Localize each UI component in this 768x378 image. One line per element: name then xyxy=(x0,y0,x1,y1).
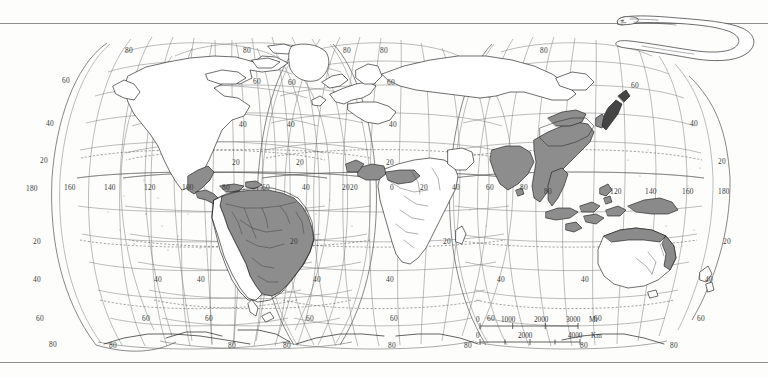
lat-label-40n-l3: 40 xyxy=(239,120,247,129)
lon-label-180e: 180 xyxy=(718,187,730,196)
lon-label-100w: 100 xyxy=(182,183,194,192)
lat-label-20n-l1b: 20 xyxy=(296,158,304,167)
lat-label-40n-l2b: 40 xyxy=(389,120,397,129)
lat-label-40s-l2a: 40 xyxy=(197,275,205,284)
lat-label-60s-l3a: 60 xyxy=(390,314,398,323)
lat-label-80n-l1b: 80 xyxy=(243,46,251,55)
lat-label-20s-l2a: 20 xyxy=(290,237,298,246)
scale-mi-unit: Mi xyxy=(589,316,597,324)
lat-label-60n-l1b: 60 xyxy=(288,78,296,87)
lat-label-80n-l4: 80 xyxy=(540,46,548,55)
lat-label-40s-l2b: 40 xyxy=(313,275,321,284)
eel-illustration xyxy=(612,8,764,70)
lat-label-80n-l2: 80 xyxy=(380,46,388,55)
lat-label-60s-l2b: 60 xyxy=(306,314,314,323)
lat-label-40s-l4a: 40 xyxy=(581,275,589,284)
scale-mi-tick-0: 0 xyxy=(476,316,480,324)
lon-label-80e: 80 xyxy=(520,183,528,192)
lat-label-60n-l4: 60 xyxy=(631,81,639,90)
lat-label-40s-right: 40 xyxy=(705,275,713,284)
lat-label-40s-l3b: 40 xyxy=(386,275,394,284)
lat-label-20n-l3: 20 xyxy=(232,158,240,167)
lon-label-140e: 140 xyxy=(645,187,657,196)
lat-label-60s-l2a: 60 xyxy=(205,314,213,323)
lat-label-60s-left: 60 xyxy=(36,314,44,323)
lat-label-40s-l1b: 40 xyxy=(154,275,162,284)
lat-label-80s-l3a: 80 xyxy=(388,341,396,350)
lat-label-80s-l4b: 80 xyxy=(670,341,678,350)
lat-label-20s-left: 20 xyxy=(33,237,41,246)
lon-label-40e: 40 xyxy=(452,183,460,192)
lat-label-20s-l3b: 20 xyxy=(443,237,451,246)
lat-label-40n-left: 40 xyxy=(46,119,54,128)
lon-label-20e: 20 xyxy=(420,183,428,192)
lat-label-20n-right: 20 xyxy=(718,157,726,166)
scale-bar: 0 1000 2000 3000 Mi 0 2000 4000 Km xyxy=(470,316,602,354)
lon-label-0: 0 xyxy=(390,183,394,192)
scale-mi-tick-3000: 3000 xyxy=(566,316,580,324)
lat-label-60n-left: 60 xyxy=(62,76,70,85)
lat-label-40n-l1b: 40 xyxy=(287,120,295,129)
lon-label-20w-b: 20 xyxy=(350,183,358,192)
lon-label-160e: 160 xyxy=(682,187,694,196)
lon-label-120e: 120 xyxy=(610,187,622,196)
lon-label-80w: 80 xyxy=(222,183,230,192)
lat-label-80s-l2b: 80 xyxy=(283,341,291,350)
lat-label-60n-l2b: 60 xyxy=(387,78,395,87)
scale-km-unit: Km xyxy=(591,332,602,340)
figure-page: 80 80 60 60 40 40 20 20 20 40 40 60 60 8… xyxy=(0,0,768,378)
lat-label-80n-l1a: 80 xyxy=(125,46,133,55)
lon-label-60w: 60 xyxy=(262,183,270,192)
lat-label-20n-l2b: 20 xyxy=(386,158,394,167)
lon-label-20w: 20 xyxy=(342,183,350,192)
lat-label-60s-l1b: 60 xyxy=(142,314,150,323)
lat-label-60n-l3: 60 xyxy=(253,77,261,86)
scale-mi-tick-2000: 2000 xyxy=(534,316,548,324)
lon-label-160w: 160 xyxy=(64,183,76,192)
lon-label-40w: 40 xyxy=(302,183,310,192)
lon-label-60e: 60 xyxy=(486,183,494,192)
lat-label-20s-right: 20 xyxy=(723,237,731,246)
scale-km-tick-0: 0 xyxy=(476,332,480,340)
landmasses xyxy=(104,44,714,344)
lat-label-20n-left: 20 xyxy=(40,156,48,165)
scale-km-tick-2000: 2000 xyxy=(518,332,532,340)
lon-label-180w: 180 xyxy=(26,184,38,193)
lon-label-140w: 140 xyxy=(104,183,116,192)
scale-km-tick-4000: 4000 xyxy=(568,332,582,340)
lat-label-40n-right: 40 xyxy=(690,119,698,128)
lon-label-80e-b: 80 xyxy=(544,187,552,196)
lat-label-60s-l4b: 60 xyxy=(697,314,705,323)
lat-label-80s-l2a: 80 xyxy=(228,341,236,350)
lon-label-120w: 120 xyxy=(144,183,156,192)
lat-label-80s-l1b: 80 xyxy=(109,341,117,350)
lat-label-80s-left: 80 xyxy=(49,340,57,349)
scale-mi-tick-1000: 1000 xyxy=(501,316,515,324)
lat-label-40s-left: 40 xyxy=(33,275,41,284)
lat-label-80n-l3: 80 xyxy=(343,46,351,55)
lat-label-40s-l3c: 40 xyxy=(497,275,505,284)
